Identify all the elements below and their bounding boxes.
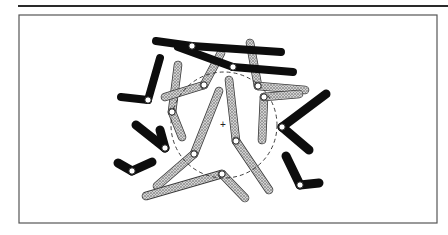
- centromere-s7: [219, 171, 225, 177]
- chromosome-arm: [156, 41, 192, 46]
- centromere-s3: [255, 83, 261, 89]
- centromere-s4: [261, 94, 267, 100]
- center-plus-marker: +: [220, 119, 226, 130]
- centromere-b1: [189, 43, 195, 49]
- chromosome-arm-stipple: [262, 97, 264, 140]
- chromosome-diagram: +: [0, 0, 448, 235]
- chromosome-arm-stipple: [264, 94, 299, 97]
- centromere-s6: [233, 138, 239, 144]
- centromere-b5: [129, 168, 135, 174]
- centromere-b2: [230, 64, 236, 70]
- centromere-b3: [145, 97, 151, 103]
- centromere-b7: [297, 182, 303, 188]
- centromere-b4: [162, 145, 168, 151]
- chromosome-arm: [121, 97, 148, 100]
- centromere-s2: [201, 82, 207, 88]
- chromosome-arm-stipple: [258, 86, 305, 90]
- centromere-s5: [191, 151, 197, 157]
- chromosome-arm: [233, 67, 293, 72]
- centromere-s1: [169, 109, 175, 115]
- centromere-b6: [279, 124, 285, 130]
